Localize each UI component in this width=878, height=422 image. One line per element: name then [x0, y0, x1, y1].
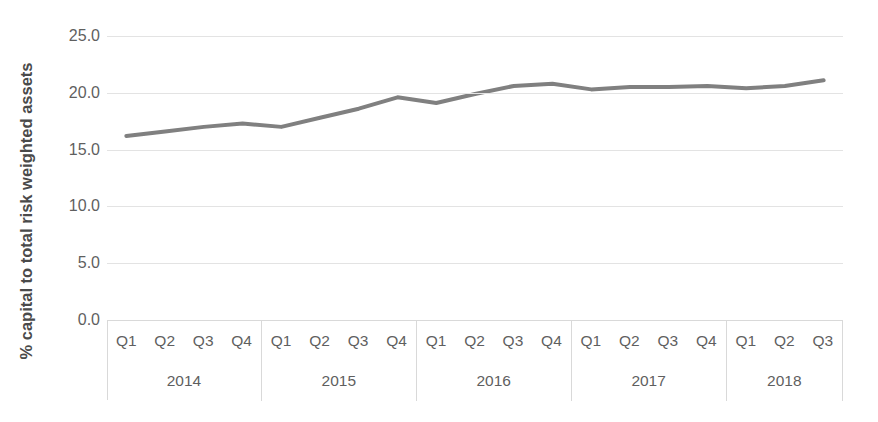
series-polyline — [126, 80, 823, 136]
y-axis-tick-label: 15.0 — [52, 141, 100, 159]
x-axis-year-group: Q1Q2Q3Q42015 — [262, 321, 417, 401]
x-axis-quarter-label: Q1 — [572, 332, 610, 350]
x-axis-year-label: 2015 — [262, 361, 416, 401]
x-axis-quarter-label: Q3 — [494, 332, 532, 350]
y-axis-tick-label: 25.0 — [52, 27, 100, 45]
x-axis-quarter-label: Q1 — [262, 332, 300, 350]
y-axis-tick-labels: 0.05.010.015.020.025.0 — [52, 0, 100, 422]
x-axis-year-label: 2016 — [417, 361, 571, 401]
x-axis-quarter-label: Q3 — [804, 332, 842, 350]
series-line — [107, 36, 843, 320]
x-axis-quarter-label: Q2 — [765, 332, 803, 350]
x-axis-quarter-label: Q2 — [145, 332, 183, 350]
x-axis-quarter-row: Q1Q2Q3Q4 — [107, 321, 261, 361]
x-axis-quarter-row: Q1Q2Q3 — [727, 321, 842, 361]
x-axis-year-group: Q1Q2Q32018 — [727, 321, 843, 401]
x-axis-quarter-label: Q3 — [184, 332, 222, 350]
x-axis-quarter-label: Q4 — [532, 332, 570, 350]
x-axis-quarter-label: Q2 — [455, 332, 493, 350]
x-axis-year-group: Q1Q2Q3Q42014 — [107, 321, 262, 401]
x-axis-category-table: Q1Q2Q3Q42014Q1Q2Q3Q42015Q1Q2Q3Q42016Q1Q2… — [107, 320, 843, 401]
x-axis-year-group: Q1Q2Q3Q42017 — [572, 321, 727, 401]
x-axis-quarter-label: Q3 — [339, 332, 377, 350]
x-axis-quarter-label: Q1 — [107, 332, 145, 350]
y-axis-title: % capital to total risk weighted assets — [0, 0, 52, 422]
plot-area — [107, 36, 843, 320]
line-chart: % capital to total risk weighted assets … — [0, 0, 878, 422]
x-axis-quarter-label: Q1 — [727, 332, 765, 350]
gridline — [107, 36, 843, 37]
y-axis-tick-label: 20.0 — [52, 84, 100, 102]
x-axis-year-label: 2017 — [572, 361, 726, 401]
y-axis-tick-label: 5.0 — [52, 254, 100, 272]
gridline — [107, 93, 843, 94]
x-axis-quarter-row: Q1Q2Q3Q4 — [417, 321, 571, 361]
gridline — [107, 150, 843, 151]
x-axis-year-group: Q1Q2Q3Q42016 — [417, 321, 572, 401]
x-axis-year-label: 2014 — [107, 361, 261, 401]
x-axis-quarter-label: Q1 — [417, 332, 455, 350]
x-axis-quarter-label: Q4 — [687, 332, 725, 350]
x-axis-year-label: 2018 — [727, 361, 842, 401]
y-axis-tick-label: 0.0 — [52, 311, 100, 329]
x-axis-quarter-label: Q2 — [610, 332, 648, 350]
x-axis-quarter-row: Q1Q2Q3Q4 — [262, 321, 416, 361]
x-axis-quarter-label: Q3 — [649, 332, 687, 350]
y-axis-tick-label: 10.0 — [52, 197, 100, 215]
x-axis-quarter-label: Q2 — [300, 332, 338, 350]
x-axis-quarter-label: Q4 — [222, 332, 260, 350]
gridline — [107, 206, 843, 207]
x-axis-quarter-row: Q1Q2Q3Q4 — [572, 321, 726, 361]
x-axis-quarter-label: Q4 — [377, 332, 415, 350]
gridline — [107, 263, 843, 264]
